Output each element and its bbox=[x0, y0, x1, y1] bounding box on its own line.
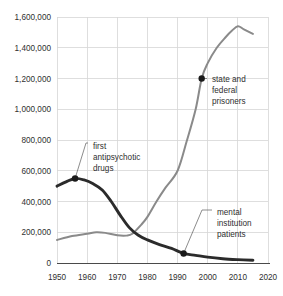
y-tick-label-0: 0 bbox=[46, 259, 51, 268]
x-tick-label-1950: 1950 bbox=[48, 273, 67, 282]
annotation-markers bbox=[72, 75, 205, 256]
annotation-line-0: state and bbox=[212, 75, 246, 84]
x-tick-label-2020: 2020 bbox=[259, 273, 278, 282]
x-tick-label-1970: 1970 bbox=[108, 273, 127, 282]
x-tick-label-1990: 1990 bbox=[168, 273, 187, 282]
annotation-label-state-and-federal-prisoners: state andfederalprisoners bbox=[212, 75, 246, 106]
y-tick-label-1200000: 1,200,000 bbox=[15, 75, 52, 84]
annotation-line-1: antipsychotic bbox=[93, 153, 140, 162]
y-tick-label-400000: 400,000 bbox=[21, 198, 51, 207]
annotation-label-mental-institution-patients: mentalinstitutionpatients bbox=[217, 208, 252, 239]
y-tick-label-1600000: 1,600,000 bbox=[15, 13, 52, 22]
annotation-line-1: institution bbox=[217, 219, 252, 228]
x-tick-label-1980: 1980 bbox=[138, 273, 157, 282]
y-tick-label-1000000: 1,000,000 bbox=[15, 105, 52, 114]
x-tick-label-2010: 2010 bbox=[229, 273, 248, 282]
annotation-labels: firstantipsychoticdrugs state andfederal… bbox=[93, 75, 252, 239]
annotation-line-0: first bbox=[93, 142, 107, 151]
x-tick-label-1960: 1960 bbox=[78, 273, 97, 282]
marker-dot-state-and-federal-prisoners bbox=[198, 75, 204, 81]
y-tick-label-1400000: 1,400,000 bbox=[15, 44, 52, 53]
y-tick-label-200000: 200,000 bbox=[21, 228, 51, 237]
annotation-line-1: federal bbox=[212, 86, 237, 95]
y-axis-tick-labels: 0200,000400,000600,000800,0001,000,0001,… bbox=[15, 13, 52, 268]
x-axis-tick-labels: 19501960197019801990200020102020 bbox=[48, 273, 278, 282]
x-tick-label-2000: 2000 bbox=[199, 273, 218, 282]
chart-page: 0200,000400,000600,000800,0001,000,0001,… bbox=[0, 0, 283, 296]
marker-dot-mental-institution-patients bbox=[180, 250, 186, 256]
leader-line-first-antipsychotic-drugs bbox=[75, 143, 88, 178]
annotation-line-0: mental bbox=[217, 208, 242, 217]
annotation-line-2: patients bbox=[217, 230, 246, 239]
line-chart: 0200,000400,000600,000800,0001,000,0001,… bbox=[0, 0, 283, 296]
annotation-line-2: prisoners bbox=[212, 97, 246, 106]
y-tick-label-600000: 600,000 bbox=[21, 167, 51, 176]
y-tick-label-800000: 800,000 bbox=[21, 136, 51, 145]
marker-dot-first-antipsychotic-drugs bbox=[72, 175, 78, 181]
annotation-line-2: drugs bbox=[93, 164, 113, 173]
annotation-label-first-antipsychotic-drugs: firstantipsychoticdrugs bbox=[93, 142, 140, 173]
